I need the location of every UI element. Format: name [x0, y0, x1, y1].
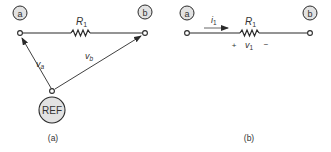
terminal-ref [50, 89, 55, 94]
node-a-badge-b: a [180, 6, 194, 20]
node-b-label-b: b [307, 9, 312, 19]
caption-a: (a) [48, 133, 59, 143]
terminal-b [143, 31, 148, 36]
panel-b: a b i1 R1 + v1 − (b) [180, 6, 317, 143]
node-b-badge: b [138, 5, 152, 19]
resistor-r1-b [240, 30, 259, 36]
voltage-plus: + [232, 41, 237, 50]
circuit-diagram: a b R1 va vb REF (a) [0, 0, 331, 152]
terminal-a-b [185, 31, 190, 36]
terminal-a [18, 31, 23, 36]
resistor-r1 [71, 30, 90, 36]
node-b-label: b [142, 8, 147, 18]
node-b-badge-b: b [303, 6, 317, 20]
terminal-b-b [308, 31, 313, 36]
voltage-minus: − [264, 40, 269, 49]
voltage-label-va: va [36, 59, 45, 70]
panel-a: a b R1 va vb REF (a) [13, 5, 152, 143]
node-a-label: a [17, 9, 22, 19]
current-label-i1: i1 [211, 15, 217, 26]
voltage-arrow-vb [55, 36, 141, 89]
node-a-badge: a [13, 6, 27, 20]
node-ref-badge: REF [39, 97, 65, 123]
voltage-label-vb: vb [85, 51, 94, 62]
node-a-label-b: a [184, 9, 189, 19]
caption-b: (b) [244, 133, 255, 143]
voltage-label-v1: v1 [245, 40, 254, 51]
resistor-label-b: R1 [245, 16, 256, 28]
resistor-label: R1 [76, 16, 87, 28]
node-ref-label: REF [42, 105, 62, 116]
